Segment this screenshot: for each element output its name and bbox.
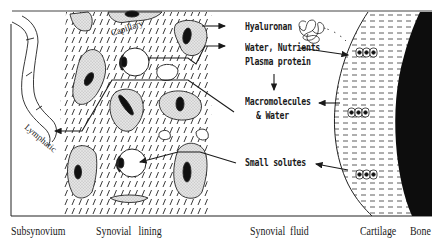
synovial-lining-label: Synovial lining: [96, 225, 162, 237]
diagram-canvas: Capillary Lymphatic: [0, 0, 444, 246]
synovial-fluid-label: Synovial fluid: [250, 225, 309, 237]
hyaluronan-label: Hyaluronan: [245, 21, 292, 32]
subsynovium-label: Subsynovium: [11, 225, 65, 237]
synovial-joint-diagram: Capillary Lymphatic: [0, 0, 444, 246]
bone-label: Bone: [410, 225, 431, 237]
plasma-protein-label: Plasma protein: [245, 56, 311, 67]
lymphatic-label: Lymphatic: [23, 122, 59, 154]
small-solutes-label: Small solutes: [245, 157, 306, 168]
cartilage-label: Cartilage: [360, 225, 396, 237]
hyaluronan-molecule-icon: [299, 20, 346, 43]
and-water-label: & Water: [256, 110, 289, 121]
macromolecules-label: Macromolecules: [245, 96, 311, 107]
water-nutrients-label: Water, Nutrients: [245, 42, 320, 53]
